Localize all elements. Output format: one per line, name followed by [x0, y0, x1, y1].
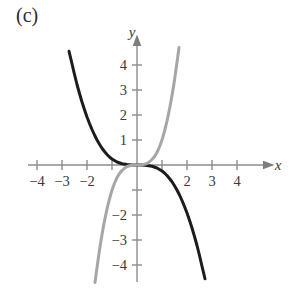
- x-tick-label: −3: [54, 173, 69, 189]
- y-tick-label: 4: [120, 57, 128, 73]
- figure-panel: (c) −4−3−2234−4−3−21234 x y: [0, 0, 295, 291]
- x-tick-label: −4: [29, 173, 45, 189]
- y-axis-label: y: [127, 24, 136, 40]
- x-axis-label: x: [274, 157, 282, 173]
- y-tick-label: 1: [120, 132, 127, 148]
- x-tick-label: 4: [233, 173, 241, 189]
- y-tick-label: −2: [112, 207, 127, 223]
- x-tick-label: 3: [208, 173, 215, 189]
- x-tick-label: −2: [79, 173, 94, 189]
- y-tick-label: −3: [112, 232, 127, 248]
- coordinate-plot: −4−3−2234−4−3−21234 x y: [0, 0, 295, 291]
- y-tick-label: 3: [120, 82, 127, 98]
- x-tick-label: 2: [183, 173, 190, 189]
- y-tick-label: −4: [112, 257, 128, 273]
- y-tick-label: 2: [120, 107, 127, 123]
